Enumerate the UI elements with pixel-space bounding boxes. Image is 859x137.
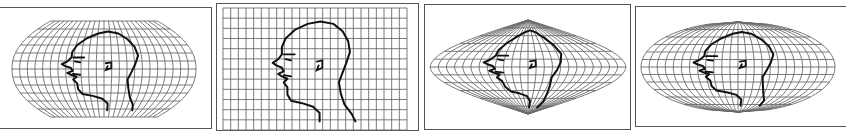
graticule-lines — [641, 22, 835, 112]
head-mouth — [705, 72, 713, 73]
head-mouth — [73, 74, 80, 75]
graticule-cylindrical — [217, 4, 420, 132]
head-ear — [530, 60, 536, 68]
panel-robinson-projection — [0, 7, 212, 129]
head-mouth — [495, 72, 503, 73]
head-ear — [106, 62, 112, 70]
graticule-lines — [12, 21, 196, 117]
head-ear — [740, 61, 746, 68]
panel-sinusoidal-projection — [424, 4, 631, 130]
head-profile-outline — [694, 32, 774, 106]
head-mouth — [284, 75, 291, 76]
head-eye — [75, 61, 80, 62]
head-ear — [317, 60, 323, 70]
graticule-mollweide — [636, 7, 847, 128]
head-eye — [498, 59, 503, 60]
panel-mollweide-projection — [635, 6, 846, 127]
head-profile-outline — [273, 21, 356, 121]
graticule-lines — [430, 20, 626, 114]
graticule-robinson — [0, 8, 212, 130]
graticule-lines — [223, 8, 407, 130]
panel-cylindrical-projection — [216, 3, 419, 131]
graticule-sinusoidal — [425, 5, 632, 131]
head-eye — [707, 60, 713, 61]
head-eye — [286, 59, 292, 60]
